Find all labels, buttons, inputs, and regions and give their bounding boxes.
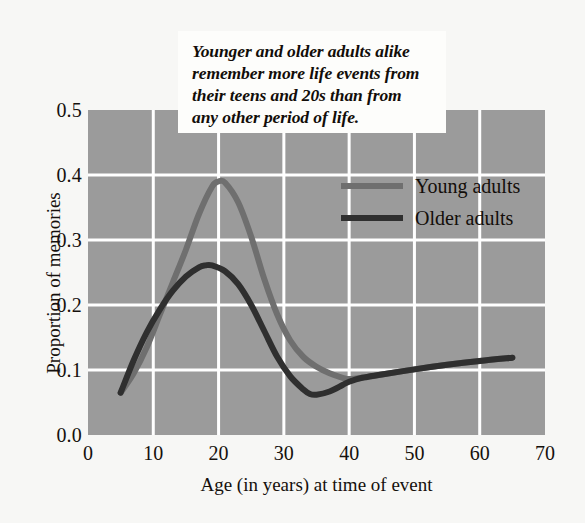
legend-swatch — [341, 215, 403, 221]
legend-item: Older adults — [341, 202, 537, 234]
chart-figure: 0.00.10.20.30.40.5 Proportion of memorie… — [0, 0, 585, 523]
legend-label: Older adults — [415, 208, 513, 228]
series-line — [121, 265, 513, 395]
callout-box: Younger and older adults alike remember … — [178, 31, 446, 133]
bottom-caption-strip — [0, 508, 585, 523]
x-axis-tick-label: 10 — [130, 443, 176, 463]
plot-svg — [88, 110, 545, 435]
x-axis-tick-labels: 010203040506070 — [88, 443, 545, 469]
x-axis-tick-label: 20 — [196, 443, 242, 463]
x-axis-tick-label: 30 — [261, 443, 307, 463]
y-axis-title: Proportion of memories — [43, 133, 65, 433]
x-axis-tick-label: 70 — [522, 443, 568, 463]
y-axis-tick-label: 0.5 — [30, 100, 82, 120]
x-axis-tick-label: 50 — [391, 443, 437, 463]
x-axis-tick-label: 0 — [65, 443, 111, 463]
plot-area: Young adultsOlder adults — [88, 110, 545, 435]
legend-item: Young adults — [341, 170, 537, 202]
callout-text: Younger and older adults alike remember … — [192, 40, 432, 128]
legend-label: Young adults — [415, 176, 520, 196]
chart-legend: Young adultsOlder adults — [341, 170, 537, 234]
x-axis-tick-label: 60 — [457, 443, 503, 463]
x-axis-tick-label: 40 — [326, 443, 372, 463]
legend-swatch — [341, 183, 403, 189]
gridlines — [88, 110, 545, 435]
x-axis-title: Age (in years) at time of event — [88, 474, 545, 496]
